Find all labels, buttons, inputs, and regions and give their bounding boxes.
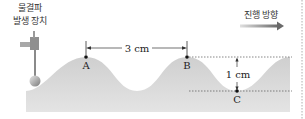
- arrowhead-up-icon: [235, 58, 238, 62]
- water-wave: [26, 57, 290, 112]
- wavelength-label: 3 cm: [125, 43, 150, 54]
- point-c-dot: [235, 89, 239, 93]
- point-b-dot: [185, 55, 189, 59]
- arrowhead-left-icon: [86, 46, 91, 50]
- wave-generator-icon: [20, 31, 41, 87]
- point-b-label: B: [183, 60, 190, 71]
- point-a-dot: [84, 55, 88, 59]
- arrowhead-right-icon: [182, 46, 187, 50]
- wave-diagram: 물결파 발생 장치 3 cm 1 cm A B C 진행 방향: [0, 0, 305, 119]
- device-label-line1: 물결파: [18, 3, 43, 13]
- device-label-line2: 발생 장치: [13, 15, 48, 26]
- direction-label: 진행 방향: [244, 9, 279, 20]
- direction-arrow-shaft: [240, 25, 278, 28]
- amplitude-label: 1 cm: [226, 69, 251, 80]
- point-a-label: A: [81, 60, 90, 71]
- point-c-label: C: [233, 94, 241, 105]
- direction-arrow-icon: [277, 22, 284, 31]
